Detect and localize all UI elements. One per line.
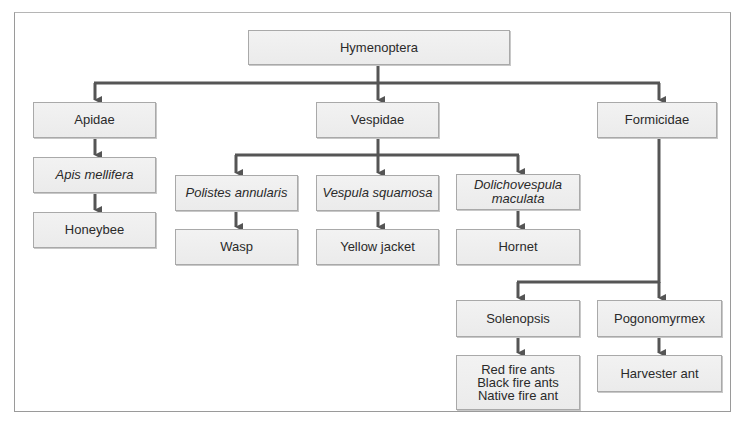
node-label-line2: maculata [492, 192, 545, 206]
node-polistes-annularis: Polistes annularis [175, 175, 298, 211]
node-label: Apis mellifera [55, 168, 133, 182]
node-label: Hornet [498, 240, 537, 254]
node-label: Wasp [220, 240, 253, 254]
node-label: Hymenoptera [340, 41, 418, 55]
node-hornet: Hornet [456, 229, 580, 265]
node-label: Solenopsis [486, 312, 550, 326]
node-fire-ants: Red fire antsBlack fire antsNative fire … [456, 355, 580, 410]
node-hymenoptera: Hymenoptera [248, 30, 510, 65]
node-label: Pogonomyrmex [614, 312, 705, 326]
node-label: Honeybee [65, 223, 124, 237]
node-apis-mellifera: Apis mellifera [33, 157, 156, 193]
node-dolichovespula-maculata: Dolichovespulamaculata [456, 174, 580, 210]
node-label-line3: Native fire ant [478, 389, 558, 402]
node-apidae: Apidae [33, 102, 156, 138]
node-label-line1: Dolichovespula [474, 178, 562, 192]
node-label: Formicidae [625, 113, 689, 127]
node-wasp: Wasp [175, 229, 298, 265]
node-label: Polistes annularis [186, 186, 288, 200]
node-harvester-ant: Harvester ant [597, 355, 722, 392]
node-solenopsis: Solenopsis [456, 300, 580, 337]
node-label: Harvester ant [620, 367, 698, 381]
node-honeybee: Honeybee [33, 212, 156, 248]
node-vespidae: Vespidae [316, 102, 439, 138]
node-label: Vespidae [351, 113, 405, 127]
node-yellow-jacket: Yellow jacket [316, 229, 439, 265]
node-pogonomyrmex: Pogonomyrmex [597, 300, 722, 337]
node-vespula-squamosa: Vespula squamosa [316, 175, 439, 211]
node-label: Vespula squamosa [322, 186, 432, 200]
node-formicidae: Formicidae [597, 102, 717, 138]
node-label: Yellow jacket [340, 240, 415, 254]
node-label: Apidae [74, 113, 114, 127]
